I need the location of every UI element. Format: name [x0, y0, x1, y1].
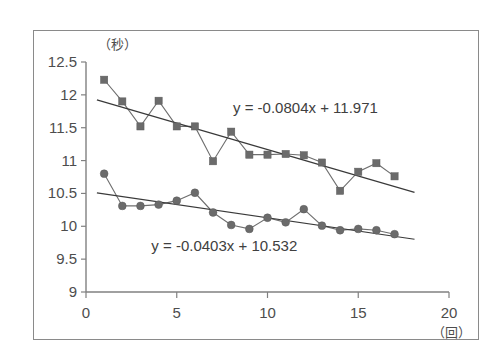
- x-axis-tick-label: 5: [173, 304, 181, 321]
- data-point-marker: [191, 189, 199, 197]
- line-chart-plot: （秒）12.51211.51110.5109.5905101520（回）y = …: [34, 31, 478, 339]
- x-axis-tick-label: 20: [441, 304, 458, 321]
- data-point-marker: [373, 160, 380, 167]
- y-axis-tick-label: 10.5: [48, 184, 77, 201]
- data-point-marker: [209, 158, 216, 165]
- data-point-marker: [155, 201, 163, 209]
- data-point-marker: [336, 226, 344, 234]
- data-point-marker: [318, 222, 326, 230]
- chart-frame: （秒）12.51211.51110.5109.5905101520（回）y = …: [33, 30, 479, 340]
- data-point-marker: [318, 159, 325, 166]
- data-point-marker: [245, 225, 253, 233]
- data-point-marker: [282, 218, 290, 226]
- data-point-marker: [373, 226, 381, 234]
- data-point-marker: [155, 97, 162, 104]
- data-point-marker: [173, 197, 181, 205]
- y-axis-tick-label: 10: [60, 217, 77, 234]
- data-point-marker: [264, 151, 271, 158]
- data-point-marker: [300, 152, 307, 159]
- data-point-marker: [100, 170, 108, 178]
- y-axis-tick-label: 12.5: [48, 53, 77, 70]
- data-point-marker: [354, 225, 362, 233]
- y-axis-tick-label: 11: [61, 152, 77, 169]
- data-point-marker: [173, 123, 180, 130]
- x-axis-unit-label: （回）: [432, 325, 471, 339]
- data-point-marker: [118, 202, 126, 210]
- x-axis-tick-label: 0: [82, 304, 90, 321]
- data-point-marker: [191, 123, 198, 130]
- data-point-marker: [391, 173, 398, 180]
- trendline-equation-lower-series: y = -0.0403x + 10.532: [151, 237, 297, 254]
- x-axis-tick-label: 10: [259, 304, 276, 321]
- x-axis-tick-label: 15: [350, 304, 367, 321]
- y-axis-tick-label: 12: [60, 86, 77, 103]
- y-axis-tick-label: 9.5: [56, 250, 77, 267]
- trendline-equation-upper-series: y = -0.0804x + 11.971: [233, 99, 378, 116]
- y-axis-unit-label: （秒）: [98, 37, 137, 52]
- data-point-marker: [391, 230, 399, 238]
- data-point-marker: [101, 76, 108, 83]
- data-point-marker: [137, 123, 144, 130]
- data-point-marker: [337, 187, 344, 194]
- figure-root: （秒）12.51211.51110.5109.5905101520（回）y = …: [0, 0, 499, 363]
- data-point-marker: [355, 168, 362, 175]
- data-point-marker: [264, 214, 272, 222]
- data-point-marker: [300, 205, 308, 213]
- data-point-marker: [119, 98, 126, 105]
- y-axis-tick-label: 11.5: [49, 119, 77, 136]
- data-point-marker: [209, 209, 217, 217]
- data-point-marker: [227, 221, 235, 229]
- data-point-marker: [228, 128, 235, 135]
- y-axis-tick-label: 9: [69, 283, 77, 300]
- data-point-marker: [282, 150, 289, 157]
- data-point-marker: [137, 202, 145, 210]
- trendline-lower-series: [97, 193, 415, 239]
- data-point-marker: [246, 151, 253, 158]
